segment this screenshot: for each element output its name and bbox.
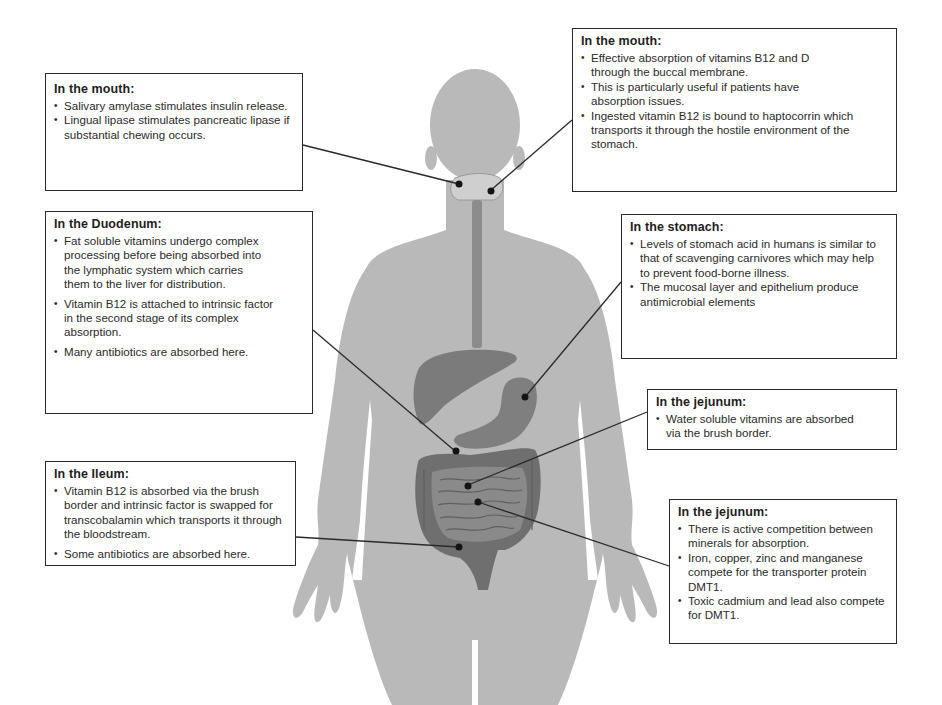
annotation-bullet: Vitamin B12 is attached to intrinsic fac… (54, 297, 305, 340)
annotation-title: In the jejunum: (678, 505, 889, 519)
leg-gap (472, 640, 478, 705)
annotation-ileum: In the Ileum: Vitamin B12 is absorbed vi… (45, 461, 296, 566)
marker-jejunum-1 (465, 483, 472, 490)
annotation-title: In the mouth: (581, 34, 889, 48)
marker-ileum (456, 544, 463, 551)
annotation-bullet: Iron, copper, zinc and manganese compete… (678, 551, 889, 594)
annotation-bullet: Fat soluble vitamins undergo complex pro… (54, 234, 305, 292)
marker-mouth-left (456, 181, 463, 188)
annotation-mouth-left: In the mouth: Salivary amylase stimulate… (45, 73, 303, 191)
annotation-title: In the stomach: (630, 220, 889, 234)
marker-stomach (522, 394, 529, 401)
annotation-bullet: This is particularly useful if patients … (581, 80, 889, 109)
esophagus (472, 200, 482, 348)
annotation-title: In the mouth: (54, 82, 295, 96)
annotation-bullet: Salivary amylase stimulates insulin rele… (54, 99, 295, 113)
annotation-mouth-right: In the mouth: Effective absorption of vi… (572, 28, 897, 192)
annotation-jejunum-2: In the jejunum: There is active competit… (669, 499, 897, 644)
annotation-bullet: Effective absorption of vitamins B12 and… (581, 51, 889, 80)
annotation-title: In the Duodenum: (54, 217, 305, 231)
annotation-bullet: Toxic cadmium and lead also compete for … (678, 594, 889, 623)
annotation-bullet: Ingested vitamin B12 is bound to haptoco… (581, 109, 889, 152)
marker-jejunum-2 (475, 499, 482, 506)
annotation-title: In the Ileum: (54, 467, 288, 481)
annotation-bullet: Water soluble vitamins are absorbed via … (656, 412, 889, 441)
annotation-bullet: Some antibiotics are absorbed here. (54, 547, 288, 561)
ear-left (425, 146, 437, 170)
annotation-bullet: Lingual lipase stimulates pancreatic lip… (54, 113, 295, 142)
annotation-bullet: There is active competition between mine… (678, 522, 889, 551)
annotation-duodenum: In the Duodenum: Fat soluble vitamins un… (45, 211, 313, 414)
annotation-jejunum-1: In the jejunum: Water soluble vitamins a… (647, 389, 897, 450)
annotation-title: In the jejunum: (656, 395, 889, 409)
annotation-bullet: Levels of stomach acid in humans is simi… (630, 237, 889, 280)
annotation-bullet: Many antibiotics are absorbed here. (54, 345, 305, 359)
annotation-bullet: The mucosal layer and epithelium produce… (630, 280, 889, 309)
head (430, 69, 520, 181)
annotation-bullet: Vitamin B12 is absorbed via the brush bo… (54, 484, 288, 542)
marker-mouth-right (488, 188, 495, 195)
annotation-stomach: In the stomach: Levels of stomach acid i… (621, 214, 897, 359)
marker-duodenum (453, 448, 460, 455)
